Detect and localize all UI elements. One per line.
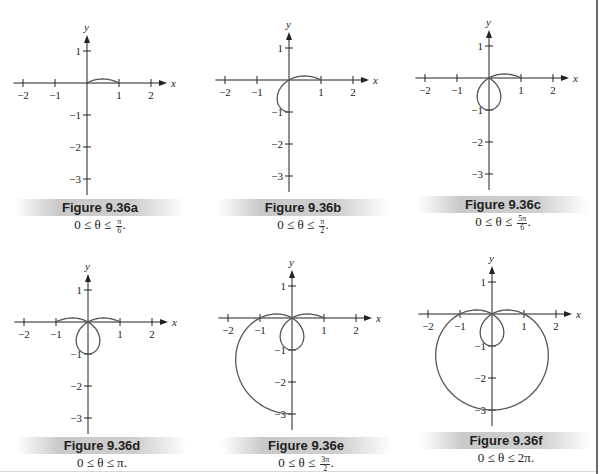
y-axis-label: y [285, 18, 291, 30]
caption-range: 0 ≤ θ ≤ 2π. [421, 450, 591, 466]
x-tick-label: −1 [49, 89, 61, 101]
y-tick-label: −1 [471, 104, 483, 116]
y-axis-label: y [84, 260, 90, 272]
x-tick-label: 2 [149, 328, 155, 340]
plot-c: xy−2−1121−1−2−3 [415, 16, 578, 190]
y-axis-arrow-icon [286, 32, 292, 40]
x-tick-label: 1 [116, 89, 122, 101]
y-axis-label: y [288, 256, 294, 268]
x-tick-label: −1 [454, 320, 466, 332]
x-tick-label: 2 [550, 84, 556, 96]
x-axis-label: x [375, 312, 381, 324]
y-tick-label: −2 [69, 141, 81, 153]
polar-curve [236, 314, 324, 414]
x-tick-label: −1 [254, 324, 266, 336]
caption-d: Figure 9.36d 0 ≤ θ ≤ π. [17, 437, 187, 471]
x-axis-label: x [572, 72, 578, 84]
y-axis-label: y [83, 21, 89, 33]
x-tick-label: 2 [353, 324, 359, 336]
x-tick-label: −2 [419, 84, 431, 96]
caption-range: 0 ≤ θ ≤ 3π2. [221, 455, 391, 473]
y-tick-label: −2 [471, 136, 483, 148]
x-tick-label: 2 [553, 320, 559, 332]
x-tick-label: −2 [222, 324, 234, 336]
x-axis-arrow-icon [564, 311, 572, 317]
x-axis-label: x [171, 316, 177, 328]
y-tick-label: −3 [471, 168, 483, 180]
x-tick-label: 1 [521, 320, 527, 332]
y-tick-label: 1 [278, 42, 284, 54]
x-axis-label: x [372, 74, 378, 86]
caption-title: Figure 9.36b [218, 199, 388, 216]
y-tick-label: −2 [274, 376, 286, 388]
caption-a: Figure 9.36a 0 ≤ θ ≤ π6. [15, 199, 185, 235]
x-axis-arrow-icon [361, 77, 369, 83]
y-axis-arrow-icon [289, 270, 295, 278]
y-tick-label: −2 [474, 372, 486, 384]
caption-range: 0 ≤ θ ≤ π. [17, 455, 187, 471]
x-tick-label: −2 [219, 86, 231, 98]
caption-range: 0 ≤ θ ≤ π6. [15, 217, 185, 235]
x-tick-label: −2 [422, 320, 434, 332]
polar-curve [87, 79, 119, 83]
plot-e: xy−2−1121−1−2−3 [218, 256, 381, 430]
x-axis-arrow-icon [561, 75, 569, 81]
polar-curve [477, 74, 521, 110]
y-tick-label: −3 [70, 412, 82, 424]
caption-c: Figure 9.36c 0 ≤ θ ≤ 5π6. [418, 196, 588, 232]
x-tick-label: −1 [251, 86, 263, 98]
y-tick-label: −2 [271, 138, 283, 150]
y-tick-label: −1 [274, 344, 286, 356]
x-tick-label: −1 [451, 84, 463, 96]
y-tick-label: −3 [271, 170, 283, 182]
caption-title: Figure 9.36a [15, 199, 185, 216]
y-axis-label: y [485, 16, 491, 28]
caption-title: Figure 9.36c [418, 196, 588, 213]
x-axis-label: x [575, 308, 581, 320]
y-axis-arrow-icon [85, 274, 91, 282]
caption-range: 0 ≤ θ ≤ 5π6. [418, 214, 588, 232]
x-axis-arrow-icon [159, 80, 167, 86]
y-tick-label: −1 [70, 348, 82, 360]
y-axis-arrow-icon [489, 266, 495, 274]
y-tick-label: −1 [69, 109, 81, 121]
y-tick-label: 1 [478, 40, 484, 52]
plot-d: xy−2−1121−1−2−3 [14, 260, 177, 434]
y-axis-arrow-icon [84, 35, 90, 43]
y-tick-label: 1 [76, 45, 82, 57]
caption-title: Figure 9.36e [221, 437, 391, 454]
figure-grid: xy−2−1121−1−2−3xy−2−1121−1−2−3xy−2−1121−… [0, 0, 602, 474]
x-tick-label: 2 [148, 89, 154, 101]
y-tick-label: 1 [481, 276, 487, 288]
y-axis-label: y [488, 252, 494, 264]
caption-b: Figure 9.36b 0 ≤ θ ≤ π2. [218, 199, 388, 235]
y-axis-arrow-icon [486, 30, 492, 38]
x-axis-arrow-icon [364, 315, 372, 321]
y-tick-label: −1 [271, 106, 283, 118]
page-border-right [596, 0, 598, 474]
y-tick-label: −2 [70, 380, 82, 392]
plot-b: xy−2−1121−1−2−3 [215, 18, 378, 192]
caption-f: Figure 9.36f 0 ≤ θ ≤ 2π. [421, 432, 591, 466]
plot-f: xy−2−1121−1−2−3 [418, 252, 581, 426]
x-tick-label: −2 [17, 89, 29, 101]
x-tick-label: −1 [50, 328, 62, 340]
x-axis-arrow-icon [160, 319, 168, 325]
x-tick-label: −2 [18, 328, 30, 340]
x-tick-label: 1 [117, 328, 123, 340]
caption-title: Figure 9.36f [421, 432, 591, 449]
x-tick-label: 1 [321, 324, 327, 336]
x-tick-label: 1 [518, 84, 524, 96]
y-tick-label: −1 [474, 340, 486, 352]
y-tick-label: −3 [69, 173, 81, 185]
caption-title: Figure 9.36d [17, 437, 187, 454]
caption-range: 0 ≤ θ ≤ π2. [218, 217, 388, 235]
x-tick-label: 2 [350, 86, 356, 98]
x-axis-label: x [170, 77, 176, 89]
y-tick-label: 1 [77, 284, 83, 296]
polar-curve [277, 76, 321, 112]
x-tick-label: 1 [318, 86, 324, 98]
caption-e: Figure 9.36e 0 ≤ θ ≤ 3π2. [221, 437, 391, 473]
y-tick-label: 1 [281, 280, 287, 292]
plot-a: xy−2−1121−1−2−3 [13, 21, 176, 195]
